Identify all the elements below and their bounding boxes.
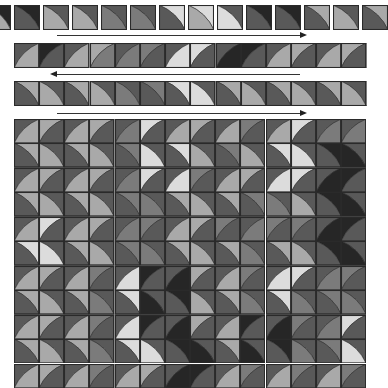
quilt-block (266, 339, 291, 363)
quilt-block (89, 339, 114, 363)
quilt-block (64, 119, 89, 143)
quilt-block (165, 290, 190, 314)
quilt-block (266, 217, 291, 241)
quilt-unit (165, 43, 190, 68)
arrow-row-3-right-arrow-icon (57, 113, 301, 114)
quilt-unit (130, 5, 156, 30)
quilt-block (190, 266, 215, 290)
quilt-block (89, 217, 114, 241)
quilt-block (341, 339, 366, 363)
quilt-unit (241, 81, 266, 106)
quilt-block (240, 339, 265, 363)
quilt-block (316, 266, 341, 290)
quilt-block (316, 168, 341, 192)
quilt-unit (64, 81, 89, 106)
quilt-block (190, 241, 215, 265)
quilt-unit (241, 43, 266, 68)
quilt-block (64, 364, 89, 388)
quilt-block (39, 143, 64, 167)
quilt-block (341, 241, 366, 265)
quilt-unit (39, 43, 64, 68)
quilt-block (240, 192, 265, 216)
quilt-unit (14, 81, 39, 106)
quilt-unit (333, 5, 359, 30)
quilt-block (266, 364, 291, 388)
quilt-block (215, 217, 240, 241)
quilt-block (39, 315, 64, 339)
unit-row-3 (14, 81, 367, 106)
quilt-block (215, 290, 240, 314)
quilt-block (316, 192, 341, 216)
quilt-block (89, 168, 114, 192)
quilt-block (64, 168, 89, 192)
quilt-block (165, 119, 190, 143)
quilt-unit (140, 81, 165, 106)
quilt-unit (115, 43, 140, 68)
quilt-block (140, 192, 165, 216)
quilt-block (316, 339, 341, 363)
quilt-block (341, 119, 366, 143)
quilt-unit (316, 81, 341, 106)
quilt-block (14, 143, 39, 167)
quilt-block (215, 315, 240, 339)
quilt-block (115, 143, 140, 167)
quilt-unit (43, 5, 69, 30)
quilt-block (190, 143, 215, 167)
quilt-unit (190, 81, 215, 106)
quilt-block (341, 192, 366, 216)
quilt-block (39, 168, 64, 192)
quilt-block (64, 217, 89, 241)
quilt-block (316, 290, 341, 314)
quilt-block (341, 364, 366, 388)
quilt-block (39, 119, 64, 143)
quilt-block (165, 364, 190, 388)
quilt-block (39, 241, 64, 265)
quilt-block (341, 290, 366, 314)
quilt-block (140, 143, 165, 167)
quilt-block (64, 241, 89, 265)
quilt-block (215, 119, 240, 143)
quilt-block (341, 315, 366, 339)
quilt-block (291, 119, 316, 143)
quilt-block (39, 217, 64, 241)
quilt-block (115, 168, 140, 192)
quilt-block (190, 168, 215, 192)
quilt-unit (266, 81, 291, 106)
quilt-block (89, 315, 114, 339)
quilt-unit (216, 43, 241, 68)
quilt-block (316, 315, 341, 339)
quilt-block (341, 266, 366, 290)
quilt-block (215, 192, 240, 216)
quilt-block (89, 119, 114, 143)
quilt-block (240, 315, 265, 339)
quilt-unit (159, 5, 185, 30)
quilt-block (14, 364, 39, 388)
quilt-block (140, 119, 165, 143)
quilt-block (165, 266, 190, 290)
unit-row-2 (14, 43, 367, 68)
quilt-block (190, 192, 215, 216)
quilt-block (39, 266, 64, 290)
quilt-unit (316, 43, 341, 68)
quilt-block (165, 168, 190, 192)
quilt-block (64, 315, 89, 339)
quilt-unit (304, 5, 330, 30)
quilt-block (89, 192, 114, 216)
quilt-block (89, 290, 114, 314)
quilt-block (240, 168, 265, 192)
quilt-block (165, 241, 190, 265)
quilt-block (240, 290, 265, 314)
quilt-block (291, 364, 316, 388)
quilt-unit (266, 43, 291, 68)
quilt-block (190, 217, 215, 241)
quilt-block (291, 339, 316, 363)
quilt-block (14, 339, 39, 363)
quilt-unit (165, 81, 190, 106)
quilt-block (291, 315, 316, 339)
quilt-unit (291, 43, 316, 68)
quilt-block (291, 241, 316, 265)
quilt-block (266, 192, 291, 216)
quilt-unit (190, 43, 215, 68)
quilt-block (140, 364, 165, 388)
quilt-block (215, 266, 240, 290)
